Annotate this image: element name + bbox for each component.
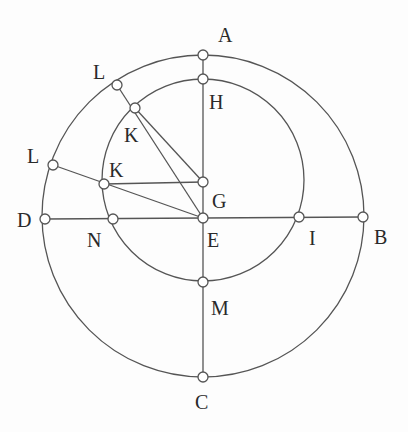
segment-k1-g [135,108,203,182]
point-n [108,214,118,224]
label-n-8: N [87,230,101,250]
label-k-3: K [124,125,138,145]
point-k2 [99,179,109,189]
label-e-9: E [207,230,219,250]
point-d [40,214,50,224]
label-l-2: L [93,62,105,82]
label-b-11: B [374,227,387,247]
label-d-7: D [17,210,31,230]
diagram-canvas [0,0,408,432]
label-k-5: K [109,160,123,180]
point-h [198,74,208,84]
label-l-4: L [27,146,39,166]
point-g [198,177,208,187]
segment-k2-g [104,182,203,184]
label-c-13: C [195,392,208,412]
segment-l2-e [53,165,203,218]
point-a [198,50,208,60]
geometry-diagram: AHLKLKGDNEIBMC [0,0,408,432]
point-b [358,212,368,222]
point-l2 [48,160,58,170]
point-e [198,213,208,223]
point-k1 [130,103,140,113]
label-g-6: G [212,191,226,211]
point-l1 [112,80,122,90]
point-c [198,372,208,382]
point-i [294,212,304,222]
label-h-1: H [209,92,223,112]
label-a-0: A [218,25,232,45]
point-m [198,277,208,287]
label-i-10: I [309,228,316,248]
label-m-12: M [211,298,229,318]
segment-l1-e [117,85,203,218]
